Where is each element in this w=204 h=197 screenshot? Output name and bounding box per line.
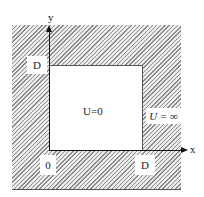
y-axis-arrow-icon [46, 25, 52, 32]
x-axis [49, 150, 183, 151]
y-axis-label: y [48, 12, 54, 23]
x-tick-label: D [135, 155, 155, 175]
x-axis-label: x [190, 144, 196, 155]
y-axis [49, 30, 50, 151]
region-bottom-border [12, 189, 181, 190]
y-tick-label: D [27, 56, 47, 74]
origin-label: 0 [40, 155, 56, 175]
x-axis-arrow-icon [181, 147, 188, 153]
potential-well-diagram: y x D 0 D U=0 U = ∞ [0, 0, 204, 197]
inside-potential-label: U=0 [83, 106, 103, 117]
outside-potential-label: U = ∞ [146, 108, 181, 124]
